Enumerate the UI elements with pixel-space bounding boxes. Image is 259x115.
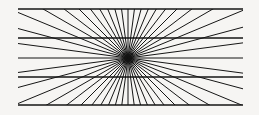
illusion-figure [0,0,259,115]
illusion-canvas [0,0,259,115]
